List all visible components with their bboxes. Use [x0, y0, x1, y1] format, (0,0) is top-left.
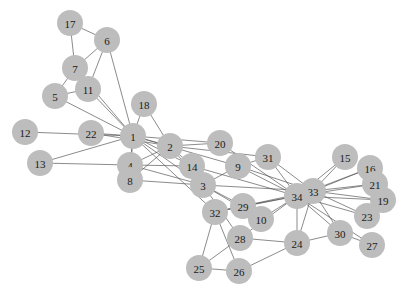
node-label: 29 [238, 201, 250, 213]
node-13: 13 [27, 150, 53, 176]
node-label: 18 [139, 99, 151, 111]
node-label: 2 [167, 141, 173, 153]
node-12: 12 [12, 119, 38, 145]
node-label: 1 [130, 131, 136, 143]
node-label: 13 [35, 158, 47, 170]
node-label: 12 [20, 127, 31, 139]
node-34: 34 [284, 183, 310, 209]
node-label: 32 [210, 207, 221, 219]
node-11: 11 [75, 76, 101, 102]
node-label: 27 [367, 240, 379, 252]
edge-1-6 [107, 40, 133, 136]
node-label: 30 [335, 228, 347, 240]
node-label: 22 [86, 128, 97, 140]
node-20: 20 [207, 130, 233, 156]
node-26: 26 [226, 258, 252, 284]
node-5: 5 [42, 83, 68, 109]
node-label: 6 [104, 35, 110, 47]
edge-4-13 [40, 163, 130, 165]
node-label: 11 [83, 84, 94, 96]
node-9: 9 [225, 153, 251, 179]
node-label: 20 [215, 138, 227, 150]
node-label: 7 [72, 63, 78, 75]
node-28: 28 [227, 225, 253, 251]
node-2: 2 [157, 133, 183, 159]
node-32: 32 [202, 199, 228, 225]
node-24: 24 [284, 230, 310, 256]
node-1: 1 [120, 123, 146, 149]
node-8: 8 [117, 167, 143, 193]
node-31: 31 [255, 144, 281, 170]
node-22: 22 [78, 120, 104, 146]
network-graph: 1234567891011121314151617181920212223242… [0, 0, 410, 297]
node-label: 15 [340, 152, 352, 164]
node-label: 25 [194, 263, 206, 275]
node-6: 6 [94, 27, 120, 53]
node-15: 15 [332, 144, 358, 170]
node-label: 21 [370, 179, 381, 191]
node-label: 19 [378, 195, 390, 207]
node-18: 18 [131, 91, 157, 117]
node-27: 27 [359, 232, 385, 258]
node-label: 26 [234, 266, 246, 278]
node-14: 14 [179, 153, 205, 179]
node-label: 10 [256, 214, 268, 226]
node-label: 31 [263, 152, 274, 164]
node-label: 9 [235, 161, 241, 173]
node-21: 21 [362, 171, 388, 197]
node-29: 29 [230, 193, 256, 219]
node-label: 3 [200, 180, 206, 192]
node-layer: 1234567891011121314151617181920212223242… [12, 10, 396, 284]
node-30: 30 [327, 220, 353, 246]
node-25: 25 [186, 255, 212, 281]
node-17: 17 [57, 10, 83, 36]
node-label: 28 [235, 233, 247, 245]
node-23: 23 [354, 203, 380, 229]
node-label: 24 [292, 238, 304, 250]
node-label: 14 [187, 161, 199, 173]
node-label: 34 [292, 191, 304, 203]
node-label: 5 [52, 91, 58, 103]
node-label: 8 [127, 175, 133, 187]
node-label: 17 [65, 18, 77, 30]
node-label: 23 [362, 211, 374, 223]
